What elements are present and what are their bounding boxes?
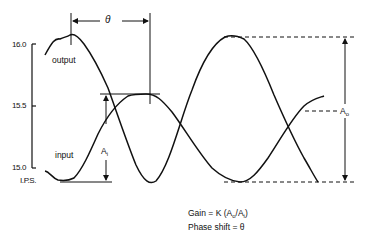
waveform-diagram: [0, 0, 369, 237]
input-amplitude-marker: [60, 94, 160, 182]
input-label: input: [55, 150, 73, 160]
output-amplitude-label: Ao: [340, 106, 349, 119]
gain-text-mid: /A: [236, 208, 244, 218]
input-amplitude-label: Ai: [101, 146, 108, 159]
output-label: output: [52, 55, 76, 65]
tick-label-15-5: 15.5: [12, 101, 26, 111]
y-axis: [32, 44, 36, 168]
gain-text-end: ): [245, 208, 248, 218]
tick-label-15-0: 15.0: [12, 163, 26, 173]
amplitude-subscript: i: [107, 151, 108, 157]
output-amplitude-marker: [224, 37, 356, 182]
phase-marker: [71, 13, 150, 104]
amplitude-subscript: o: [346, 111, 349, 117]
formula-block: Gain = K (Ao/Ai) Phase shift = θ: [188, 208, 248, 233]
phase-label: θ: [105, 15, 110, 25]
gain-text: Gain = K (A: [188, 208, 232, 218]
y-axis-unit: I.P.S.: [20, 176, 36, 186]
phase-shift-formula: Phase shift = θ: [188, 222, 248, 233]
tick-label-16-0: 16.0: [12, 40, 26, 50]
input-curve: [45, 94, 324, 182]
gain-formula: Gain = K (Ao/Ai): [188, 208, 248, 222]
